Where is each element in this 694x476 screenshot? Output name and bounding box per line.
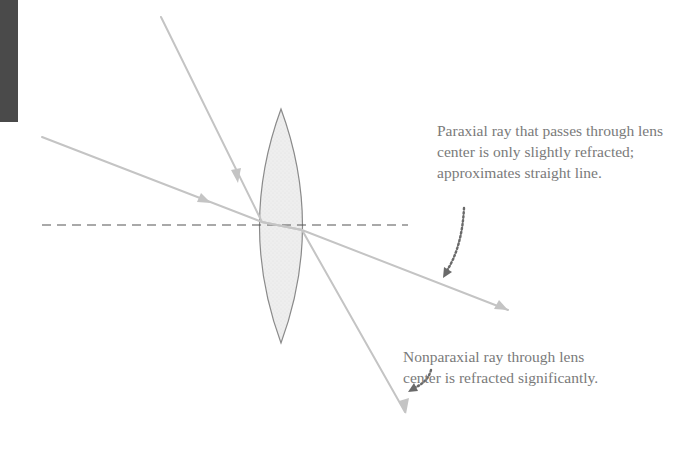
- annotation-line: Paraxial ray that passes through lens: [437, 120, 663, 141]
- dotted-pointer-arrow-icon: [446, 208, 464, 272]
- arrowhead-icon: [197, 193, 211, 203]
- annotation-line: center is only slightly refracted;: [437, 141, 663, 162]
- nonparaxial-ray-annotation: Nonparaxial ray through lens center is r…: [403, 346, 598, 388]
- lens-diagram: [0, 0, 694, 476]
- arrowhead-icon: [231, 168, 241, 183]
- paraxial-ray-annotation: Paraxial ray that passes through lens ce…: [437, 120, 663, 183]
- annotation-line: approximates straight line.: [437, 162, 663, 183]
- annotation-line: Nonparaxial ray through lens: [403, 346, 598, 367]
- annotation-line: center is refracted significantly.: [403, 367, 598, 388]
